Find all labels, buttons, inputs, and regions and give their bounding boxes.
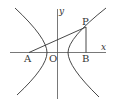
point-b-label: B	[82, 53, 89, 64]
point-o-label: O	[49, 53, 57, 64]
y-axis-label: y	[58, 6, 65, 16]
hyperbola-diagram: y x A O B P	[0, 0, 114, 105]
point-p-label: P	[82, 16, 89, 27]
point-a-label: A	[23, 53, 32, 64]
x-axis-label: x	[101, 42, 106, 52]
